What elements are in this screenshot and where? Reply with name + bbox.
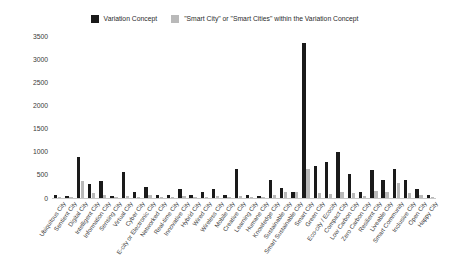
y-axis-tick-label: 2000 <box>2 102 48 109</box>
bar-group <box>188 36 198 198</box>
y-axis-tick-label: 3500 <box>2 33 48 40</box>
bar-variation-concept <box>178 189 181 198</box>
bar-variation-concept <box>314 166 317 198</box>
bar-group <box>75 36 85 198</box>
bar-variation-concept <box>88 184 91 198</box>
bar-group <box>267 36 277 198</box>
bar-group <box>199 36 209 198</box>
bar-group <box>290 36 300 198</box>
bar-group <box>256 36 266 198</box>
bar-group <box>357 36 367 198</box>
bar-variation-concept <box>235 169 238 198</box>
bar-group <box>143 36 153 198</box>
plot-area <box>52 36 436 198</box>
bar-group <box>177 36 187 198</box>
legend-label-variation-concept: Variation Concept <box>104 14 158 23</box>
bar-variation-concept <box>370 170 373 198</box>
bar-smart-city-within <box>374 191 377 198</box>
y-axis-tick-label: 1000 <box>2 148 48 155</box>
bar-group <box>346 36 356 198</box>
bar-group <box>403 36 413 198</box>
bar-group <box>64 36 74 198</box>
legend-item-variation-concept: Variation Concept <box>91 14 158 23</box>
bar-smart-city-within <box>397 183 400 198</box>
bar-variation-concept <box>144 187 147 198</box>
bar-variation-concept <box>393 169 396 198</box>
bar-group <box>52 36 62 198</box>
bar-variation-concept <box>381 180 384 198</box>
bar-group <box>312 36 322 198</box>
y-axis-tick-label: 1500 <box>2 125 48 132</box>
y-axis-tick-label: 3000 <box>2 56 48 63</box>
bar-variation-concept <box>302 43 305 198</box>
bar-group <box>109 36 119 198</box>
bar-group <box>301 36 311 198</box>
bar-chart: Variation Concept "Smart City" or "Smart… <box>0 0 449 276</box>
bar-variation-concept <box>336 152 339 198</box>
legend-swatch-light <box>171 15 179 23</box>
bar-variation-concept <box>348 174 351 198</box>
bar-group <box>425 36 435 198</box>
bar-group <box>165 36 175 198</box>
bar-variation-concept <box>99 181 102 198</box>
bar-variation-concept <box>280 188 283 198</box>
bar-group <box>414 36 424 198</box>
bar-group <box>86 36 96 198</box>
bar-smart-city-within <box>81 181 84 198</box>
y-axis-tick-label: 2500 <box>2 79 48 86</box>
bar-variation-concept <box>269 180 272 198</box>
x-axis-labels: Ubiquitous CitySentient CityDigital City… <box>52 200 436 276</box>
bar-group <box>391 36 401 198</box>
y-axis-tick-label: 500 <box>2 171 48 178</box>
x-axis-line <box>52 198 436 199</box>
bar-group <box>132 36 142 198</box>
bar-group <box>120 36 130 198</box>
legend-label-smart-city-within: "Smart City" or "Smart Cities" within th… <box>184 14 358 23</box>
legend-swatch-dark <box>91 15 99 23</box>
bar-variation-concept <box>404 180 407 198</box>
bar-variation-concept <box>415 189 418 198</box>
legend-item-smart-city-within: "Smart City" or "Smart Cities" within th… <box>171 14 358 23</box>
bar-group <box>154 36 164 198</box>
y-axis-tick-label: 0 <box>2 195 48 202</box>
bar-variation-concept <box>77 157 80 198</box>
bar-group <box>222 36 232 198</box>
bar-variation-concept <box>325 162 328 198</box>
bar-group <box>335 36 345 198</box>
bar-group <box>278 36 288 198</box>
bar-group <box>324 36 334 198</box>
bar-smart-city-within <box>306 169 309 198</box>
bar-group <box>98 36 108 198</box>
bar-variation-concept <box>122 172 125 198</box>
bar-group <box>369 36 379 198</box>
bar-group <box>233 36 243 198</box>
bar-group <box>211 36 221 198</box>
chart-legend: Variation Concept "Smart City" or "Smart… <box>0 14 449 23</box>
bar-group <box>380 36 390 198</box>
bar-group <box>244 36 254 198</box>
bar-variation-concept <box>212 189 215 198</box>
